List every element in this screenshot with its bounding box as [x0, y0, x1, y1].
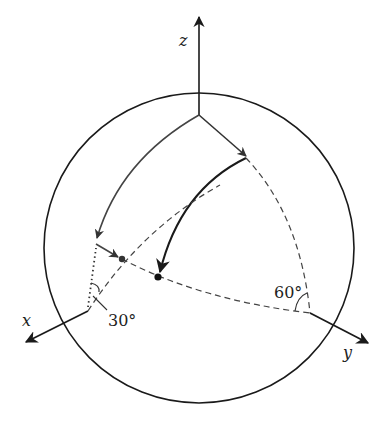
corner-to-point-arrow [96, 244, 118, 257]
y-axis [310, 313, 368, 343]
diagram-canvas: z x y 30° 60° [0, 0, 389, 425]
angle-label-60: 60° [274, 283, 302, 302]
angle-label-30: 30° [108, 311, 136, 330]
angle-arc-30 [91, 283, 99, 292]
y-axis-label: y [342, 343, 353, 362]
point-a [119, 256, 125, 262]
outer-rotation-arrow [97, 115, 199, 238]
angle-leader-30 [93, 296, 107, 310]
x-axis [26, 311, 88, 342]
x-axis-label: x [22, 311, 31, 330]
z-axis-label: z [178, 31, 188, 50]
point-b [154, 273, 161, 280]
dashed-arc-diagonal [88, 185, 220, 311]
inner-rotation-arrow [160, 158, 246, 272]
sphere-diagram: z x y 30° 60° [0, 0, 389, 425]
sphere-outline [44, 93, 354, 403]
branch-right-arrow [199, 115, 246, 156]
